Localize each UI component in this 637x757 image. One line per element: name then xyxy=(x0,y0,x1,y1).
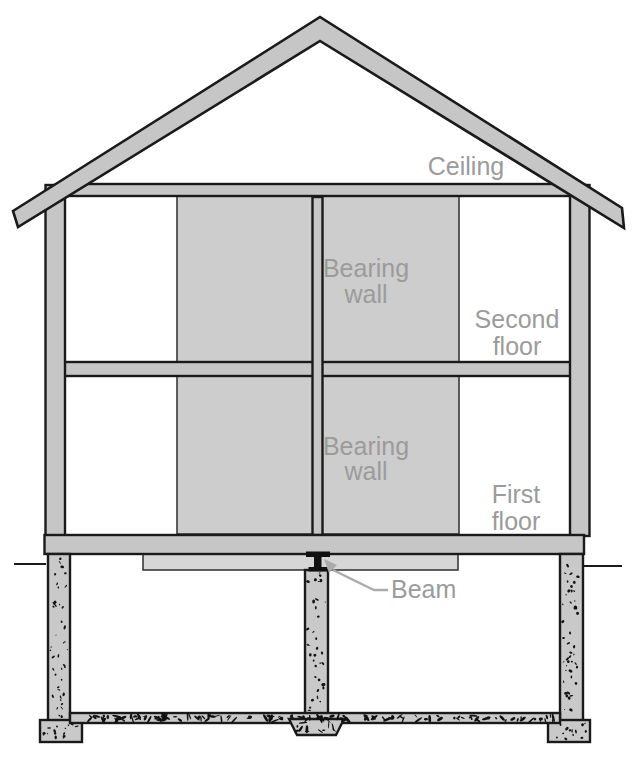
house-section-figure: Ceiling Bearing wall Second floor Bearin… xyxy=(0,0,637,757)
bearing-wall-column xyxy=(313,197,323,535)
bearing-area-below-floor xyxy=(143,554,458,570)
ceiling-band xyxy=(58,184,572,196)
speckle xyxy=(315,606,317,609)
second-floor-label-line1: Second xyxy=(475,305,560,333)
right-exterior-wall xyxy=(570,185,590,536)
beam-top-flange xyxy=(306,552,330,558)
bearing-wall-lower-label-line2: wall xyxy=(343,457,387,485)
house-section-diagram: Ceiling Bearing wall Second floor Bearin… xyxy=(0,0,637,757)
foundation-column-center xyxy=(305,570,328,715)
beam-web xyxy=(314,557,322,568)
first-floor-band xyxy=(45,535,585,554)
bearing-wall-lower-label-line1: Bearing xyxy=(323,432,409,460)
first-floor-label-line1: First xyxy=(492,480,541,508)
beam-label: Beam xyxy=(391,575,456,603)
bearing-wall-upper-label-line1: Bearing xyxy=(323,254,409,282)
ceiling-label: Ceiling xyxy=(428,152,504,180)
left-exterior-wall xyxy=(46,185,66,536)
bearing-wall-upper-label-line2: wall xyxy=(343,280,387,308)
beam-bottom-flange xyxy=(309,567,328,572)
foundation-wall-left xyxy=(48,554,70,722)
second-floor-label-line2: floor xyxy=(493,332,542,360)
first-floor-label-line2: floor xyxy=(492,507,541,535)
